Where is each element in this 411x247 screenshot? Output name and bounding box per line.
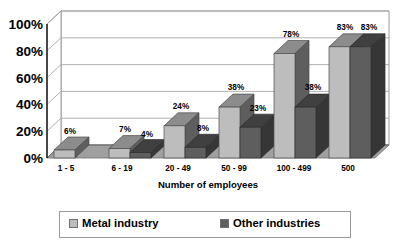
chart-legend: Metal industry Other industries [59, 211, 351, 238]
y-tick-label: 0% [23, 151, 43, 166]
x-tick-label: 50 - 99 [221, 164, 247, 173]
bar-group-500 [329, 34, 385, 158]
bar-other-500 [350, 34, 385, 158]
value-label-metal-500: 83% [337, 23, 354, 32]
value-label-metal-50-99: 38% [228, 83, 245, 92]
legend-item-other-industries[interactable]: Other industries [220, 217, 320, 229]
value-label-metal-20-49: 24% [173, 102, 190, 111]
y-tick-label: 20% [16, 124, 43, 139]
x-tick-label: 100 - 499 [277, 164, 312, 173]
y-tick-label: 100% [8, 17, 43, 32]
x-axis-title: Number of employees [158, 179, 258, 190]
x-tick-label: 1 - 5 [58, 164, 75, 173]
x-tick-label: 500 [341, 164, 355, 173]
value-label-other-50-99: 23% [250, 104, 267, 113]
y-tick-label: 40% [16, 97, 43, 112]
value-label-metal-1-5: 6% [64, 127, 77, 136]
value-label-other-100-499: 38% [305, 83, 322, 92]
y-axis-tick-labels: 100% 80% 60% 40% 20% 0% [8, 17, 43, 166]
legend-item-metal-industry[interactable]: Metal industry [69, 217, 159, 229]
value-label-other-20-49: 8% [197, 124, 210, 133]
legend-label-other-industries: Other industries [233, 217, 320, 229]
chart-left-wall [47, 11, 61, 158]
value-label-other-6-19: 4% [141, 130, 154, 139]
x-tick-label: 20 - 49 [165, 164, 191, 173]
value-label-metal-100-499: 78% [283, 30, 300, 39]
x-tick-label: 6 - 19 [112, 164, 133, 173]
y-tick-label: 60% [16, 71, 43, 86]
value-label-other-500: 83% [361, 23, 378, 32]
legend-swatch-icon-metal-industry [69, 219, 78, 228]
legend-swatch-icon-other-industries [220, 219, 229, 228]
plot-area: 100% 80% 60% 40% 20% 0% [0, 0, 411, 200]
bar-other-100-499 [295, 94, 330, 158]
x-axis-tick-labels: 1 - 5 6 - 19 20 - 49 50 - 99 100 - 499 5… [58, 164, 355, 173]
legend-label-metal-industry: Metal industry [82, 217, 159, 229]
y-tick-label: 80% [16, 44, 43, 59]
value-label-metal-6-19: 7% [119, 125, 132, 134]
bar-chart: 100% 80% 60% 40% 20% 0% [0, 0, 411, 247]
